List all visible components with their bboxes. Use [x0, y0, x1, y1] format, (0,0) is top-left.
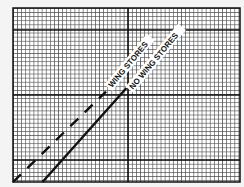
chart: WING STORES NO WING STORES — [0, 0, 244, 187]
plot-area — [13, 8, 240, 182]
